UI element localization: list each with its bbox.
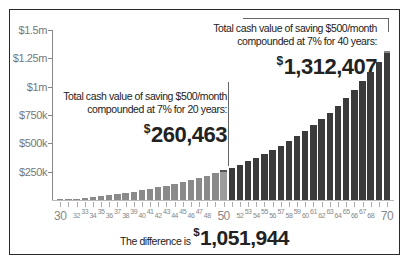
bar-age-44 — [171, 184, 177, 200]
x-tick-label: 34 — [89, 212, 96, 219]
annotation-40-value-wrap: $1,312,407 — [157, 49, 377, 79]
x-tick-label: 33 — [81, 208, 88, 215]
x-tick-label: 50 — [217, 209, 229, 223]
x-tick — [207, 202, 208, 207]
x-tick-label: 48 — [204, 212, 211, 219]
x-tick — [232, 202, 233, 207]
y-tick — [48, 87, 52, 88]
bar-age-43 — [163, 186, 169, 200]
x-tick — [117, 202, 118, 207]
y-tick — [48, 115, 52, 116]
x-tick — [60, 202, 61, 207]
y-tick — [48, 143, 52, 144]
x-tick — [322, 202, 323, 207]
x-tick — [101, 202, 102, 207]
x-tick-label: 68 — [367, 212, 374, 219]
x-tick — [183, 202, 184, 207]
x-tick-label: 52 — [237, 212, 244, 219]
x-tick-label: 67 — [359, 208, 366, 215]
y-tick-label: $250k — [19, 166, 47, 178]
x-tick — [142, 202, 143, 207]
bar-age-34 — [90, 197, 96, 200]
bar-age-67 — [359, 81, 365, 200]
x-tick-label: 35 — [98, 208, 105, 215]
x-tick-label: 37 — [114, 208, 121, 215]
bar-age-39 — [131, 192, 137, 200]
x-tick-label: 62 — [318, 212, 325, 219]
bar-age-70 — [384, 51, 390, 200]
x-tick — [166, 202, 167, 207]
bar-age-30 — [57, 199, 63, 200]
bar-age-36 — [106, 195, 112, 200]
difference-prefix: The difference is — [120, 235, 191, 247]
bar-age-33 — [82, 198, 88, 200]
bar-age-64 — [335, 106, 341, 200]
bar-age-56 — [269, 150, 275, 200]
bar-age-66 — [351, 90, 357, 200]
leader-line-40-years-h — [243, 18, 389, 19]
x-tick — [264, 202, 265, 207]
x-tick — [305, 202, 306, 207]
x-tick — [354, 202, 355, 207]
x-tick — [109, 202, 110, 207]
x-tick-label: 38 — [122, 212, 129, 219]
x-tick — [68, 202, 69, 207]
y-tick-label: $1.25m — [13, 52, 47, 64]
annotation-20-line2: compounded at 7% for 20 years: — [27, 103, 227, 116]
y-tick-label: $1.5m — [18, 24, 47, 36]
bar-age-31 — [65, 199, 71, 200]
x-tick-label: 36 — [106, 212, 113, 219]
annotation-20-years: Total cash value of saving $500/month co… — [27, 90, 227, 147]
bar-age-52 — [237, 165, 243, 200]
y-tick-label: $1m — [27, 81, 47, 93]
bar-age-55 — [261, 154, 267, 200]
y-tick — [48, 172, 52, 173]
x-tick — [93, 202, 94, 207]
x-tick-label: 53 — [245, 208, 252, 215]
x-tick — [134, 202, 135, 207]
bar-age-50 — [220, 170, 226, 200]
x-tick — [297, 202, 298, 207]
bar-age-61 — [310, 125, 316, 200]
currency-symbol: $ — [276, 54, 282, 68]
bar-age-59 — [294, 136, 300, 200]
x-tick-label: 46 — [188, 212, 195, 219]
annotation-40-line1: Total cash value of saving $500/month — [157, 22, 377, 35]
x-tick-label: 65 — [343, 208, 350, 215]
x-tick-label: 42 — [155, 212, 162, 219]
x-tick — [215, 202, 216, 207]
annotation-40-years: Total cash value of saving $500/month co… — [157, 22, 377, 79]
x-tick — [175, 202, 176, 207]
bar-age-38 — [122, 193, 128, 200]
x-tick — [273, 202, 274, 207]
difference-value: 1,051,944 — [200, 226, 289, 249]
x-tick-label: 61 — [310, 208, 317, 215]
bar-age-69 — [376, 62, 382, 200]
x-tick — [85, 202, 86, 207]
bar-age-63 — [327, 113, 333, 200]
x-tick — [281, 202, 282, 207]
annotation-20-line1: Total cash value of saving $500/month — [27, 90, 227, 103]
x-tick-label: 58 — [286, 212, 293, 219]
y-tick — [48, 30, 52, 31]
bar-age-65 — [343, 98, 349, 200]
x-axis — [52, 200, 394, 201]
bar-age-58 — [286, 141, 292, 200]
y-tick — [48, 58, 52, 59]
x-tick — [77, 202, 78, 207]
annotation-20-value-wrap: $260,463 — [27, 117, 227, 147]
x-tick-label: 56 — [269, 212, 276, 219]
x-tick-label: 64 — [335, 212, 342, 219]
x-tick-label: 40 — [138, 212, 145, 219]
x-tick — [191, 202, 192, 207]
bar-age-40 — [139, 190, 145, 200]
x-tick — [256, 202, 257, 207]
x-tick-label: 60 — [302, 212, 309, 219]
x-tick-label: 32 — [73, 212, 80, 219]
x-tick — [248, 202, 249, 207]
x-tick-label: 63 — [326, 208, 333, 215]
bar-age-53 — [245, 161, 251, 200]
bar-age-48 — [204, 176, 210, 200]
bar-age-62 — [318, 119, 324, 200]
bar-age-37 — [114, 194, 120, 200]
